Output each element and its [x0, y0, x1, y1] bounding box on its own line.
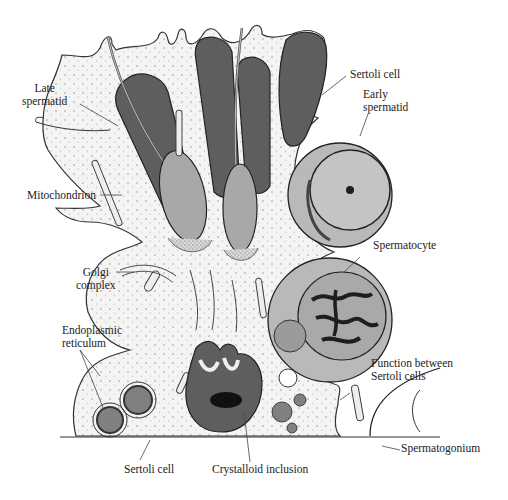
- label-late-spermatid: Late spermatid: [22, 82, 67, 108]
- label-sertoli-cell-top: Sertoli cell: [350, 68, 400, 81]
- label-early-spermatid: Early spermatid: [363, 88, 408, 114]
- diagram-canvas: Late spermatid Sertoli cell Early sperma…: [0, 0, 508, 500]
- early-spermatid: [288, 143, 392, 247]
- spermatid-head-right: [223, 164, 257, 252]
- label-mitochondrion: Mitochondrion: [27, 189, 96, 202]
- label-spermatocyte: Spermatocyte: [373, 239, 436, 252]
- label-golgi-complex: Golgi complex: [76, 266, 116, 292]
- label-sertoli-cell-bottom: Sertoli cell: [124, 463, 174, 476]
- crystalloid-inclusion: [210, 392, 242, 408]
- label-crystalloid-inclusion: Crystalloid inclusion: [212, 463, 308, 476]
- label-spermatogonium: Spermatogonium: [401, 442, 480, 455]
- label-endoplasmic-reticulum: Endoplasmic reticulum: [62, 324, 122, 350]
- label-function-between-sertoli-cells: Function between Sertoli cells: [371, 357, 453, 383]
